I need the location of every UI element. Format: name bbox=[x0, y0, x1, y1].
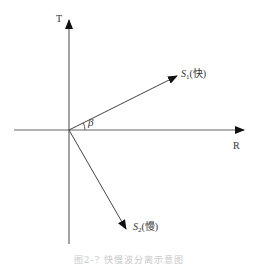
r-axis-label: R bbox=[233, 141, 240, 151]
t-axis-label: T bbox=[56, 14, 62, 24]
s2-label: S2(慢) bbox=[133, 222, 158, 234]
figure-caption: 图2-? 快慢波分离示意图 bbox=[0, 253, 258, 266]
s1-suffix: (快) bbox=[190, 68, 207, 79]
s2-suffix: (慢) bbox=[142, 221, 159, 232]
s2-vector bbox=[69, 130, 126, 229]
beta-arc bbox=[83, 123, 85, 130]
beta-label: β bbox=[88, 117, 93, 128]
s1-label: S1(快) bbox=[181, 69, 206, 81]
s1-vector bbox=[69, 76, 177, 130]
